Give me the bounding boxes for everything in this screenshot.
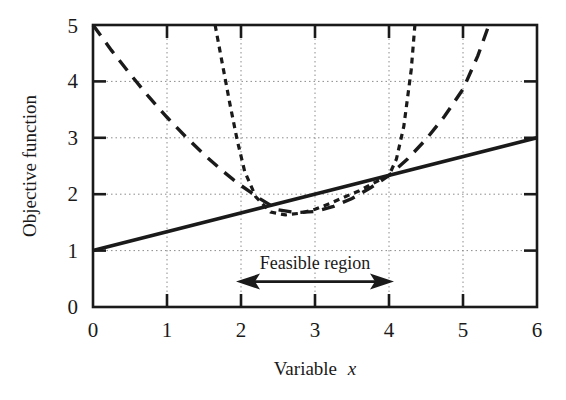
- series-objective-line: [93, 138, 537, 251]
- ytick-label-5: 5: [68, 14, 79, 38]
- xtick-label-6: 6: [532, 318, 543, 342]
- y-axis-title: Objective function: [19, 95, 40, 237]
- x-axis-title-plain: Variable: [274, 358, 337, 379]
- series-constraint-long-dash: [93, 25, 489, 213]
- xtick-label-4: 4: [384, 318, 395, 342]
- xtick-label-0: 0: [88, 318, 99, 342]
- x-tick-labels: 0 1 2 3 4 5 6: [88, 318, 543, 342]
- ytick-label-1: 1: [68, 239, 79, 263]
- ytick-label-3: 3: [68, 126, 79, 150]
- xtick-label-3: 3: [310, 318, 321, 342]
- x-axis-title-variable: x: [347, 358, 357, 379]
- xtick-label-1: 1: [162, 318, 173, 342]
- feasible-region-label: Feasible region: [260, 253, 370, 273]
- ytick-label-2: 2: [68, 182, 79, 206]
- chart-canvas: Feasible region 0 1 2 3 4 5 6 0 1 2 3 4 …: [0, 0, 566, 400]
- y-tick-labels: 0 1 2 3 4 5: [68, 14, 79, 319]
- chart-figure: Feasible region 0 1 2 3 4 5 6 0 1 2 3 4 …: [0, 0, 566, 400]
- xtick-label-2: 2: [236, 318, 247, 342]
- x-axis-title: Variable x: [274, 358, 357, 379]
- ytick-label-0: 0: [68, 295, 79, 319]
- ytick-label-4: 4: [68, 69, 79, 93]
- feasible-region-annotation: Feasible region: [236, 253, 394, 290]
- xtick-label-5: 5: [458, 318, 469, 342]
